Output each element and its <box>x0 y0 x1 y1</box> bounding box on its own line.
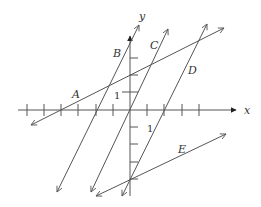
line-D-label: D <box>187 64 197 77</box>
y-unit-label: 1 <box>114 90 120 101</box>
line-C-label: C <box>150 39 159 52</box>
y-axis-label: y <box>138 10 146 23</box>
x-axis: x 1 <box>18 104 251 134</box>
line-E: E <box>96 134 226 196</box>
line-B-label: B <box>112 47 121 60</box>
coordinate-plane-diagram: x 1 y 1 A B C D E <box>0 0 261 207</box>
line-E-label: E <box>177 143 186 156</box>
y-axis: y 1 <box>114 10 146 196</box>
x-axis-label: x <box>244 104 251 117</box>
line-B: B <box>57 25 139 192</box>
x-unit-label: 1 <box>147 123 153 134</box>
line-A-label: A <box>71 88 80 101</box>
